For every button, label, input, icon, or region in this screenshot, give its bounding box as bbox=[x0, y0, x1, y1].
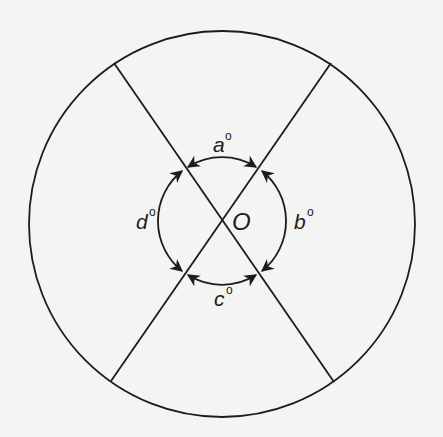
outer-circle bbox=[29, 31, 415, 417]
arc-b bbox=[262, 171, 286, 271]
svg-text:o: o bbox=[307, 205, 314, 219]
svg-text:o: o bbox=[149, 205, 156, 219]
center-label-o: O bbox=[232, 208, 251, 235]
angle-label-b: b o bbox=[294, 205, 314, 233]
svg-text:d: d bbox=[136, 210, 149, 233]
arc-a bbox=[188, 157, 256, 167]
arc-c bbox=[188, 275, 256, 285]
svg-text:b: b bbox=[294, 210, 306, 233]
angle-label-d: d o bbox=[136, 205, 156, 233]
svg-text:o: o bbox=[225, 129, 232, 143]
svg-text:c: c bbox=[214, 287, 225, 310]
angle-label-c: c o bbox=[214, 283, 233, 310]
geometry-diagram: a o b o c o d o O bbox=[0, 0, 443, 437]
angle-label-a: a o bbox=[213, 129, 232, 156]
arc-d bbox=[158, 171, 182, 271]
svg-text:a: a bbox=[213, 133, 225, 156]
svg-text:o: o bbox=[226, 283, 233, 297]
